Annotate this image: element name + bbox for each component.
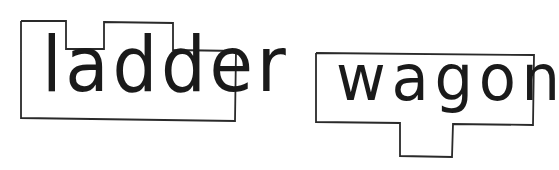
- word-wagon: wagon: [336, 46, 559, 110]
- word-ladder: ladder: [42, 27, 290, 103]
